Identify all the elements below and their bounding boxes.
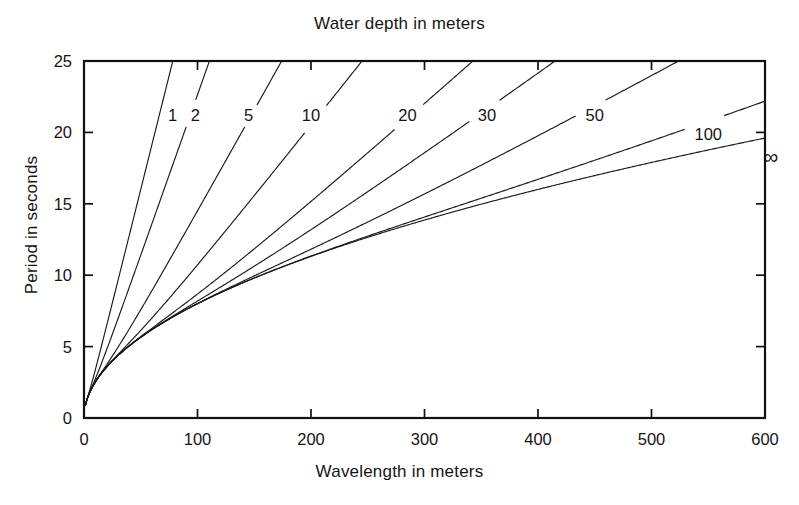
x-tick-label: 300 [411, 430, 439, 449]
depth-curve-20 [85, 130, 394, 406]
y-tick-label: 20 [22, 123, 72, 142]
y-tick-label: 15 [22, 194, 72, 213]
curve-label-5: 5 [244, 106, 253, 125]
depth-curve-20 [423, 62, 472, 105]
depth-curve-100 [724, 101, 765, 115]
y-tick-label: 5 [22, 337, 72, 356]
depth-curve-30 [499, 61, 555, 101]
curve-label-50: 50 [586, 106, 604, 125]
curve-label-100: 100 [694, 124, 722, 143]
depth-curve-2 [85, 127, 186, 406]
y-tick-label: 0 [22, 409, 72, 428]
depth-curve-100 [85, 129, 684, 405]
y-tick-label: 10 [22, 266, 72, 285]
depth-curve-10 [85, 133, 304, 406]
curve-label-1: 1 [168, 106, 177, 125]
y-tick-label: 25 [22, 52, 72, 71]
x-tick-label: 400 [524, 430, 552, 449]
depth-curve-10 [326, 61, 361, 105]
curve-label-30: 30 [478, 106, 496, 125]
curve-label-2: 2 [191, 106, 200, 125]
depth-curve-50 [85, 116, 575, 406]
depth-curve-30 [85, 121, 469, 405]
plot-frame-rect [84, 61, 765, 418]
x-tick-label: 200 [297, 430, 325, 449]
curve-label-infinite: ∞ [763, 145, 778, 169]
x-tick-label: 600 [751, 430, 779, 449]
axis-ticks [84, 61, 765, 418]
curve-lines [85, 61, 765, 406]
x-tick-label: 0 [79, 430, 88, 449]
curve-label-20: 20 [398, 106, 416, 125]
x-tick-label: 100 [184, 430, 212, 449]
axes-frame [84, 61, 765, 418]
curve-label-10: 10 [302, 106, 320, 125]
wave-dispersion-chart: Water depth in meters Wavelength in mete… [0, 0, 799, 505]
depth-curve-infinite [85, 138, 765, 405]
depth-curve-50 [606, 61, 680, 100]
depth-curve-5 [257, 61, 282, 105]
plot-canvas [0, 0, 799, 505]
x-tick-label: 500 [638, 430, 666, 449]
depth-curve-1 [85, 62, 172, 405]
